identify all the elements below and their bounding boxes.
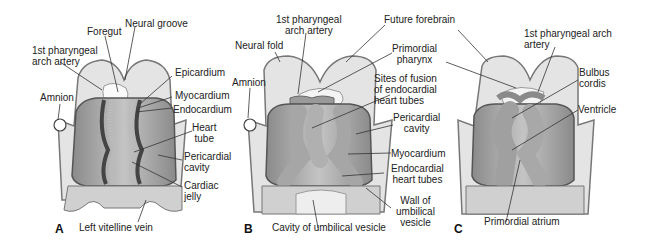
label-epicardium: Epicardium (175, 67, 225, 78)
panel-letter-c: C (454, 222, 463, 236)
label-pharyngeal-artery-a: 1st pharyngeal arch artery (32, 45, 98, 67)
label-cavity-umbilical-vesicle: Cavity of umbilical vesicle (272, 222, 386, 233)
panel-letter-b: B (244, 222, 253, 236)
label-myocardium-b: Myocardium (391, 148, 445, 159)
label-foregut: Foregut (87, 26, 121, 37)
label-left-vitelline-vein: Left vitelline vein (79, 222, 153, 233)
label-amnion-b: Amnion (232, 77, 266, 88)
label-myocardium-a: Myocardium (175, 90, 229, 101)
label-ventricle: Ventricle (578, 104, 616, 115)
label-wall-umbilical-vesicle: Wall of umbilical vesicle (396, 195, 435, 228)
label-neural-fold: Neural fold (235, 40, 283, 51)
label-pericardial-cavity-a: Pericardial cavity (184, 151, 231, 173)
label-sites-of-fusion: Sites of fusion of endocardial heart tub… (374, 73, 437, 106)
label-primordial-pharynx: Primordial pharynx (392, 43, 437, 65)
label-future-forebrain: Future forebrain (384, 14, 455, 25)
label-pharyngeal-artery-b: 1st pharyngeal arch artery (276, 14, 342, 36)
label-pericardial-cavity-b: Pericardial cavity (393, 112, 440, 134)
panel-a-embryo (54, 60, 186, 211)
panel-b-embryo (244, 56, 392, 214)
label-amnion-a: Amnion (40, 92, 74, 103)
label-endocardial-heart-tubes: Endocardial heart tubes (391, 163, 444, 185)
label-cardiac-jelly: Cardiac jelly (184, 180, 218, 202)
label-bulbus-cordis: Bulbus cordis (579, 67, 610, 89)
label-neural-groove: Neural groove (125, 18, 188, 29)
panel-c-embryo (458, 56, 594, 214)
label-pharyngeal-artery-c: 1st pharyngeal arch artery (524, 28, 612, 50)
panel-letter-a: A (55, 222, 64, 236)
label-primordial-atrium: Primordial atrium (484, 216, 560, 227)
label-heart-tube: Heart tube (192, 122, 216, 144)
label-endocardium: Endocardium (173, 104, 232, 115)
